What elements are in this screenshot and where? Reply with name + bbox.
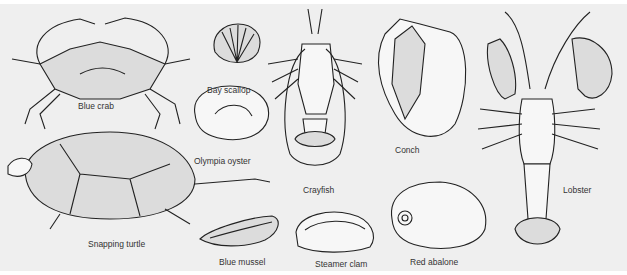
- label-lobster: Lobster: [563, 185, 591, 195]
- illustration-canvas: [0, 4, 627, 271]
- crayfish-drawing: [268, 9, 362, 165]
- label-steamer-clam: Steamer clam: [315, 259, 367, 269]
- label-olympia-oyster: Olympia oyster: [194, 156, 251, 166]
- label-blue-crab: Blue crab: [78, 101, 114, 111]
- label-bay-scallop: Bay scallop: [207, 85, 250, 95]
- bay-scallop-drawing: [214, 24, 260, 63]
- red-abalone-drawing: [392, 182, 486, 248]
- conch-drawing: [378, 19, 465, 136]
- lobster-drawing: [478, 12, 612, 244]
- illustration-plate: Blue crab Bay scallop Olympia oyster Cra…: [0, 4, 627, 271]
- label-snapping-turtle: Snapping turtle: [88, 239, 145, 249]
- label-conch: Conch: [395, 145, 420, 155]
- label-blue-mussel: Blue mussel: [219, 257, 265, 267]
- label-red-abalone: Red abalone: [410, 257, 458, 267]
- snapping-turtle-drawing: [8, 132, 270, 229]
- label-crayfish: Crayfish: [303, 185, 334, 195]
- blue-mussel-drawing: [200, 216, 278, 246]
- steamer-clam-drawing: [296, 212, 373, 252]
- blue-crab-drawing: [12, 18, 190, 129]
